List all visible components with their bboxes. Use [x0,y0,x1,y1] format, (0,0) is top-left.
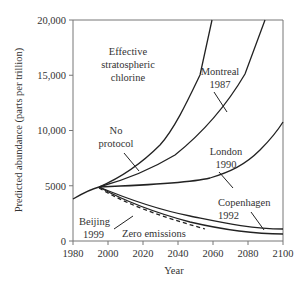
label-london-1: London [210,146,243,157]
label-copenhagen-1: Copenhagen [218,197,271,208]
x-tick-label: 2000 [98,248,119,259]
label-zero-emissions: Zero emissions [122,228,186,239]
annotation-title-line2: stratospheric [101,59,155,70]
label-london-2: 1990 [216,159,237,170]
x-ticks [73,241,283,245]
label-montreal-2: 1987 [210,79,231,90]
y-axis-label: Predicted abundance (parts per trillion) [13,47,25,212]
annotation-title-line3: chlorine [111,72,146,83]
x-tick-label: 2040 [168,248,189,259]
y-ticks [69,20,73,241]
leader-london [219,172,233,188]
x-tick-label: 2020 [133,248,154,259]
chart: 0 5000 10,000 15,000 20,000 1980 2000 20… [0,0,306,290]
x-axis-label: Year [164,265,184,276]
x-tick-label: 2060 [203,248,224,259]
x-tick-label: 2100 [273,248,294,259]
label-beijing-1: Beijing [79,216,111,227]
y-tick-label: 5000 [45,181,66,192]
line-zero-emissions [99,188,205,229]
label-no-protocol-1: No [110,125,123,136]
y-tick-label: 0 [61,236,66,247]
label-montreal-1: Montreal [201,66,240,77]
annotation-title-line1: Effective [109,46,148,57]
y-tick-label: 15,000 [37,70,66,81]
label-copenhagen-2: 1992 [218,210,239,221]
label-no-protocol-2: protocol [99,138,134,149]
y-tick-label: 10,000 [37,125,66,136]
x-tick-label: 2080 [238,248,259,259]
x-tick-label: 1980 [63,248,84,259]
label-beijing-2: 1999 [83,229,104,240]
line-london-1990 [99,122,283,187]
y-tick-label: 20,000 [37,15,66,26]
